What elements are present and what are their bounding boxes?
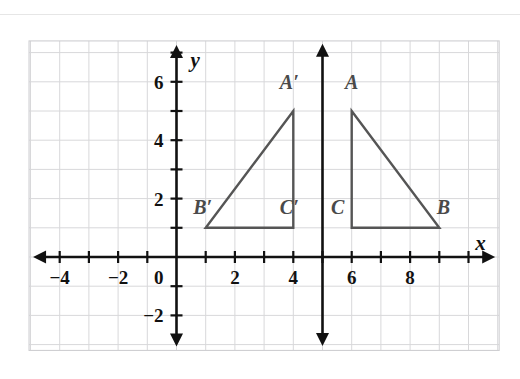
- vertex-label: C′: [280, 196, 299, 218]
- x-tick-label: −2: [108, 267, 128, 288]
- y-tick-label: −2: [143, 305, 163, 326]
- vertex-label: A: [343, 71, 358, 93]
- vertex-label: C: [331, 196, 345, 218]
- x-tick-label: 8: [405, 267, 415, 288]
- figure-background: [0, 0, 520, 379]
- vertex-label: B: [436, 196, 450, 218]
- vertex-label: B′: [192, 196, 212, 218]
- y-tick-label: 6: [154, 72, 164, 93]
- x-axis-label: x: [474, 231, 486, 255]
- x-tick-label: 2: [230, 267, 240, 288]
- x-tick-label: 4: [289, 267, 299, 288]
- origin-label: 0: [154, 267, 164, 288]
- y-tick-label: 4: [154, 130, 164, 151]
- coordinate-plane-figure: −4−22468642−20 yx ABCA′B′C′: [0, 0, 520, 379]
- x-tick-label: −4: [50, 267, 71, 288]
- x-tick-label: 6: [347, 267, 357, 288]
- vertex-label: A′: [278, 71, 299, 93]
- y-tick-label: 2: [154, 189, 164, 210]
